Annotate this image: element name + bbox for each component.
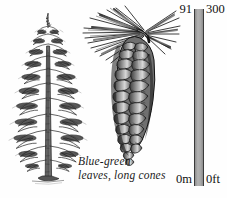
scale-top-metric-label: 91 bbox=[172, 2, 192, 17]
scale-top-imperial-label: 300 bbox=[206, 2, 225, 17]
field-guide-illustration-panel: Blue-green leaves, long cones 91 300 0m … bbox=[0, 0, 227, 198]
scale-bottom-imperial-label: 0ft bbox=[206, 172, 220, 187]
caption-line-2: leaves, long cones bbox=[78, 168, 174, 182]
scale-bar-track bbox=[194, 9, 204, 186]
species-caption: Blue-green leaves, long cones bbox=[78, 154, 174, 182]
height-scale: 91 300 0m 0ft bbox=[170, 0, 227, 198]
pine-cone-illustration bbox=[80, 2, 182, 170]
scale-bottom-metric-label: 0m bbox=[170, 172, 192, 187]
caption-line-1: Blue-green bbox=[78, 154, 174, 168]
